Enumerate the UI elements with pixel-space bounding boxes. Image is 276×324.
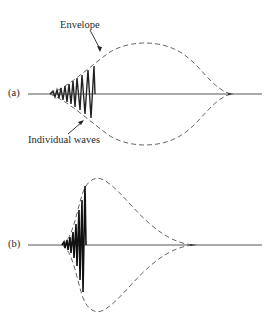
envelope-arrowhead-icon — [97, 46, 102, 52]
individual-waves-label: Individual waves — [28, 134, 100, 145]
panel-a-label: (a) — [8, 87, 20, 98]
panel-b-label: (b) — [8, 238, 20, 249]
envelope-tail-b — [190, 244, 197, 246]
panel-a — [28, 30, 262, 145]
wave-packet-diagram: Envelope Individual waves (a) (b) — [0, 0, 276, 324]
individual-waves-b — [62, 186, 86, 292]
individual-waves-a — [50, 66, 95, 118]
envelope-label: Envelope — [60, 19, 100, 30]
envelope-arrow-line — [90, 30, 100, 49]
panel-b — [28, 178, 262, 311]
envelope-lower-b — [62, 245, 192, 312]
diagram-canvas — [0, 0, 276, 324]
envelope-tail-a — [228, 93, 234, 95]
